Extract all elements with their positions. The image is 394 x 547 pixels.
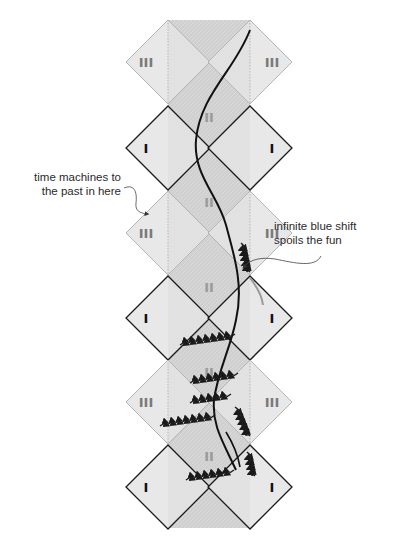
label-region-iii: III: [139, 226, 154, 241]
label-region-ii: II: [204, 195, 214, 210]
label-region-i: I: [144, 480, 149, 495]
label-region-i: I: [144, 311, 149, 326]
annotation-blue-shift: infinite blue shift spoils the fun: [274, 219, 384, 247]
label-region-i: I: [270, 480, 275, 495]
label-region-iii: III: [139, 55, 154, 70]
label-region-i: I: [270, 311, 275, 326]
label-region-iii: III: [265, 395, 280, 410]
label-region-i: I: [144, 141, 149, 156]
label-region-i: I: [270, 141, 275, 156]
label-region-ii: II: [204, 280, 214, 295]
penrose-diagram: IIIIIIIIIIIIIIIIIIIIIIIIIIIIIIIIII: [0, 0, 394, 547]
annotation-time-machines: time machines to the past in here: [18, 170, 121, 198]
label-region-ii: II: [204, 110, 214, 125]
leader-time-machines: [124, 187, 147, 214]
label-region-iii: III: [139, 395, 154, 410]
label-region-ii: II: [204, 449, 214, 464]
label-region-iii: III: [265, 55, 280, 70]
